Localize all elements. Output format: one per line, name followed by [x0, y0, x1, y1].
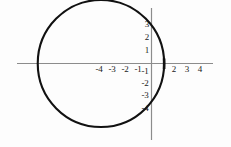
y-tick-label--2: -2 — [141, 79, 148, 88]
y-tick-label-2: 2 — [145, 33, 149, 42]
y-tick-label-3: 3 — [145, 20, 149, 29]
x-tick-label-3: 3 — [185, 65, 189, 74]
x-tick-label--2: -2 — [121, 65, 128, 74]
y-tick-label--4: -4 — [141, 104, 148, 113]
x-tick-label--3: -3 — [108, 65, 115, 74]
y-tick-label--1: -1 — [141, 67, 148, 76]
x-tick-label--4: -4 — [95, 65, 102, 74]
y-tick-label-1: 1 — [145, 46, 149, 55]
circle-graph-figure: -4 -3 -2 -1 2 3 4 3 2 1 -1 -2 -3 -4 — [0, 0, 231, 147]
x-tick-label-2: 2 — [172, 65, 176, 74]
x-tick-label-4: 4 — [198, 65, 202, 74]
y-tick-label--3: -3 — [141, 91, 148, 100]
plot-canvas — [0, 0, 231, 147]
